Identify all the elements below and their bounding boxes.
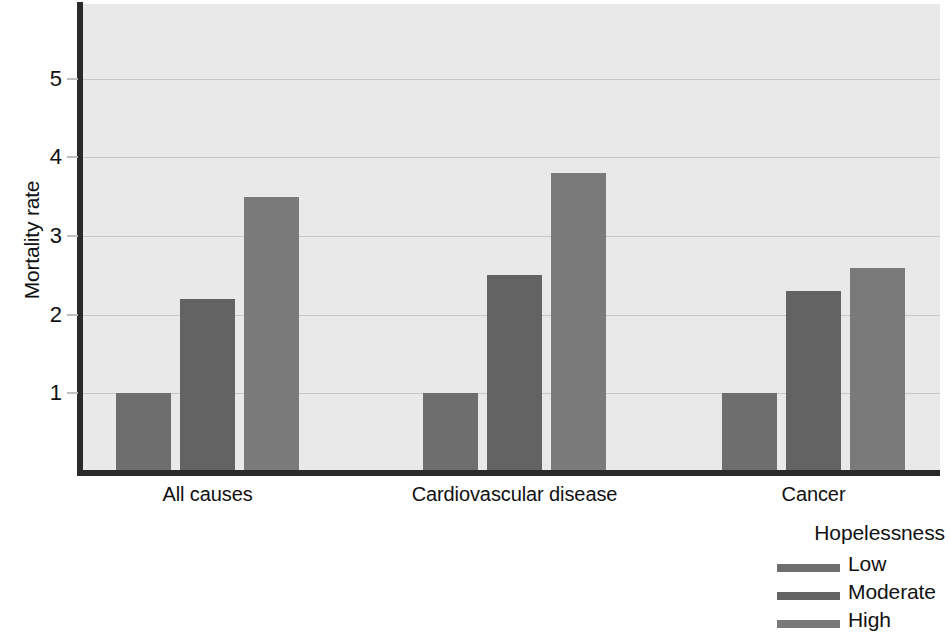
bar-chart-figure: Mortality rate 12345 All causesCardiovas… bbox=[0, 0, 950, 640]
legend-row-moderate[interactable]: Moderate bbox=[700, 583, 950, 609]
gridline bbox=[83, 236, 940, 237]
y-tick-label: 3 bbox=[22, 225, 62, 247]
bar-all-causes-low bbox=[116, 393, 171, 472]
y-tick-mark bbox=[67, 392, 78, 394]
y-axis-line bbox=[77, 2, 83, 475]
x-axis-line bbox=[77, 470, 940, 476]
y-tick-mark bbox=[67, 314, 78, 316]
y-tick-mark bbox=[67, 78, 78, 80]
legend-label-high: High bbox=[848, 608, 891, 632]
y-tick-label: 4 bbox=[22, 146, 62, 168]
legend-swatch-low bbox=[777, 564, 840, 572]
bar-all-causes-moderate bbox=[180, 299, 235, 472]
bar-cancer-low bbox=[722, 393, 777, 472]
x-axis-label-cancer: Cancer bbox=[654, 483, 950, 506]
bar-cardiovascular-disease-low bbox=[423, 393, 478, 472]
y-tick-mark bbox=[67, 156, 78, 158]
y-tick-label: 1 bbox=[22, 382, 62, 404]
legend-label-moderate: Moderate bbox=[848, 580, 936, 604]
legend-row-high[interactable]: High bbox=[700, 611, 950, 637]
legend-swatch-high bbox=[777, 620, 840, 628]
legend-swatch-moderate bbox=[777, 592, 840, 600]
bar-all-causes-high bbox=[244, 197, 299, 472]
legend: Hopelessness LowModerateHigh bbox=[700, 521, 950, 640]
legend-label-low: Low bbox=[848, 552, 886, 576]
x-axis-label-cardiovascular-disease: Cardiovascular disease bbox=[355, 483, 675, 506]
bar-cardiovascular-disease-moderate bbox=[487, 275, 542, 472]
legend-title: Hopelessness bbox=[814, 521, 945, 545]
bar-cardiovascular-disease-high bbox=[551, 173, 606, 472]
y-tick-label: 2 bbox=[22, 304, 62, 326]
bar-cancer-moderate bbox=[786, 291, 841, 472]
gridline bbox=[83, 79, 940, 80]
x-axis-label-all-causes: All causes bbox=[48, 483, 368, 506]
gridline bbox=[83, 157, 940, 158]
bar-cancer-high bbox=[850, 268, 905, 473]
y-tick-label: 5 bbox=[22, 68, 62, 90]
y-tick-mark bbox=[67, 235, 78, 237]
plot-area bbox=[83, 4, 940, 472]
legend-row-low[interactable]: Low bbox=[700, 555, 950, 581]
